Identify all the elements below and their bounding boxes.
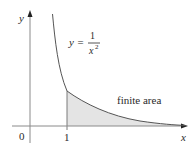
equation-numerator: 1 [90,30,95,41]
equation-exponent: 2 [95,43,99,51]
x-tick-1-label: 1 [64,131,70,143]
origin-label: 0 [19,130,25,142]
x-axis-arrow-icon [181,124,188,129]
y-axis-arrow-icon [28,10,33,17]
finite-area-label: finite area [117,94,161,106]
plot-svg: y x 0 1 y = 1 x 2 finite area [0,0,196,155]
y-axis-label: y [18,12,24,24]
x-axis-label: x [180,131,186,143]
equation-denominator: x [88,45,94,56]
equation-lhs: y = [68,36,84,48]
equation-label: y = 1 x 2 [68,30,100,56]
figure: y x 0 1 y = 1 x 2 finite area [0,0,196,155]
